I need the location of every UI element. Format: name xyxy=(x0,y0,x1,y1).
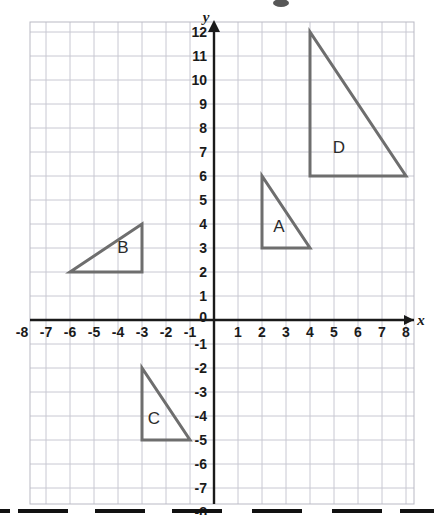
y-tick-label: 10 xyxy=(191,72,207,88)
y-tick-label: -5 xyxy=(195,432,208,448)
origin-label: 0 xyxy=(199,309,207,325)
x-tick-label: 6 xyxy=(354,324,362,340)
y-tick-label: -6 xyxy=(195,456,208,472)
y-tick-label: 11 xyxy=(192,48,207,64)
x-tick-label: -6 xyxy=(64,324,77,340)
x-tick-label: -3 xyxy=(136,324,149,340)
y-tick-label: 8 xyxy=(199,120,207,136)
y-tick-label: -1 xyxy=(195,336,208,352)
y-tick-label: 4 xyxy=(199,216,207,232)
x-tick-label: 1 xyxy=(234,324,242,340)
coordinate-grid-figure: -8-7-6-5-4-3-2-112345678121110987654321-… xyxy=(0,0,434,515)
x-axis-name: x xyxy=(416,312,425,328)
x-tick-label: 8 xyxy=(402,324,410,340)
y-tick-label: 12 xyxy=(191,24,207,40)
scan-artifacts xyxy=(0,0,434,511)
y-tick-label: -4 xyxy=(195,408,208,424)
y-tick-label: 2 xyxy=(199,264,207,280)
x-tick-label: -5 xyxy=(88,324,101,340)
x-tick-label: 4 xyxy=(306,324,314,340)
coordinate-plane: -8-7-6-5-4-3-2-112345678121110987654321-… xyxy=(0,0,434,515)
y-tick-label: 9 xyxy=(199,96,207,112)
x-tick-label: 5 xyxy=(330,324,338,340)
triangle-label-b: B xyxy=(117,238,128,257)
x-tick-label: -7 xyxy=(40,324,53,340)
x-tick-label: -8 xyxy=(16,324,29,340)
top-smudge-mark xyxy=(273,0,289,7)
y-tick-label: 1 xyxy=(199,288,207,304)
triangle-label-a: A xyxy=(273,217,285,236)
x-tick-label: 7 xyxy=(378,324,386,340)
y-tick-label: -3 xyxy=(195,384,208,400)
y-tick-label: 3 xyxy=(199,240,207,256)
y-axis-name: y xyxy=(201,9,210,25)
triangle-label-c: C xyxy=(148,409,160,428)
grid-lines xyxy=(30,22,414,504)
y-tick-label: -7 xyxy=(195,480,208,496)
x-tick-label: -4 xyxy=(112,324,125,340)
y-tick-label: -2 xyxy=(195,360,208,376)
x-tick-label: 2 xyxy=(258,324,266,340)
y-tick-label: 7 xyxy=(199,144,207,160)
y-tick-label: 6 xyxy=(199,168,207,184)
x-tick-label: 3 xyxy=(282,324,290,340)
x-tick-label: -2 xyxy=(160,324,173,340)
triangle-label-d: D xyxy=(333,138,345,157)
y-tick-label: 5 xyxy=(199,192,207,208)
grid-border xyxy=(30,22,414,504)
